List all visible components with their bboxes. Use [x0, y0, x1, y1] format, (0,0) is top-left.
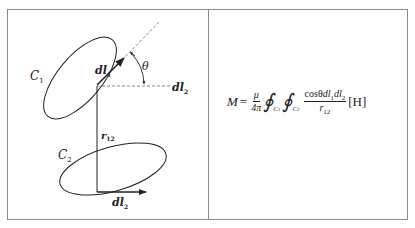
mutual-inductance-diagram: C1 dl1 θ dl2 r12 C2 dl2 — [8, 10, 208, 219]
loop-c1 — [31, 26, 129, 131]
formula-equals: = — [240, 94, 247, 110]
label-r12: r12 — [101, 130, 115, 142]
contour-integral-c1: ∮ — [263, 91, 273, 111]
formula-unit: [H] — [348, 94, 366, 110]
label-dl1: dl1 — [95, 64, 111, 78]
contour-integral-c2: ∮ — [282, 91, 292, 111]
formula-panel: M = μ 4π ∮ C1 ∮ C2 cosθdl1dl2 r12 [H] — [209, 10, 407, 219]
mutual-inductance-formula: M = μ 4π ∮ C1 ∮ C2 cosθdl1dl2 r12 [H] — [227, 88, 366, 115]
loop-c2 — [54, 133, 172, 206]
formula-integrand: cosθdl1dl2 r12 — [304, 88, 347, 115]
formula-coefficient: μ 4π — [251, 89, 261, 114]
label-dl2-bottom: dl2 — [112, 196, 128, 210]
integral-c2-subscript: C2 — [292, 105, 299, 113]
label-c2: C2 — [58, 148, 72, 164]
theta-arc-start-arrow — [130, 52, 135, 56]
label-c1: C1 — [30, 69, 44, 85]
formula-lhs: M — [227, 94, 238, 110]
label-theta: θ — [142, 60, 149, 73]
integral-c1-subscript: C1 — [273, 105, 280, 113]
label-dl2-dashed: dl2 — [172, 81, 188, 95]
dl1-extension-dashed — [122, 21, 160, 60]
diagram-panel: C1 dl1 θ dl2 r12 C2 dl2 — [8, 10, 208, 219]
